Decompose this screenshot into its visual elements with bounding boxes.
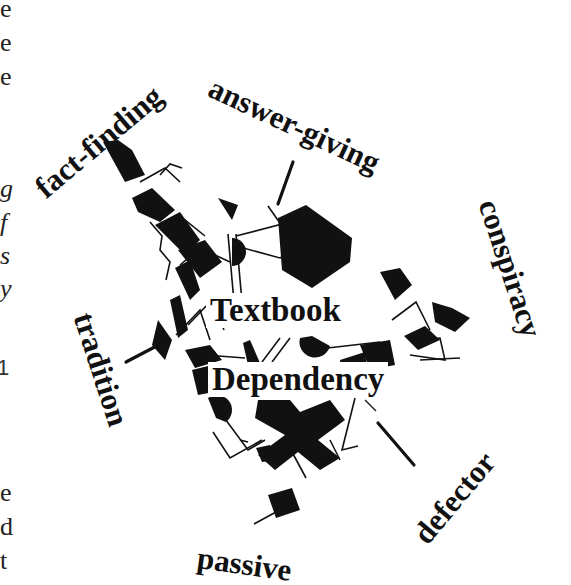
center-label-textbook: Textbook — [206, 293, 345, 328]
spoke-answer-giving — [278, 162, 293, 204]
spoke-defector — [378, 423, 414, 465]
center-label-dependency: Dependency — [208, 362, 388, 397]
